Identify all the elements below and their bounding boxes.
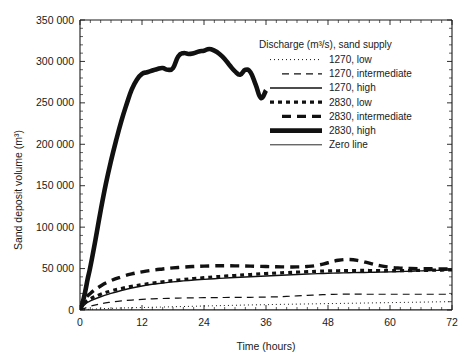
x-tick-label: 24	[198, 316, 210, 328]
legend-label-2830-intermediate: 2830, intermediate	[329, 111, 412, 122]
y-tick-label: 100 000	[36, 221, 74, 233]
legend-label-1270-low: 1270, low	[329, 54, 373, 65]
y-axis-title: Sand deposit volume (m³)	[12, 130, 24, 250]
x-tick-label: 0	[77, 316, 83, 328]
y-tick-label: 0	[68, 304, 74, 316]
legend-title: Discharge (m³/s), sand supply	[259, 39, 392, 50]
legend-label-1270-intermediate: 1270, intermediate	[329, 68, 412, 79]
x-tick-label: 12	[136, 316, 148, 328]
y-tick-label: 150 000	[36, 179, 74, 191]
x-tick-label: 72	[446, 316, 458, 328]
sand-deposit-volume-line-chart: 050 000100 000150 000200 000250 000300 0…	[0, 0, 468, 358]
x-tick-label: 48	[322, 316, 334, 328]
y-tick-label: 250 000	[36, 96, 74, 108]
y-tick-label: 350 000	[36, 14, 74, 26]
y-tick-label: 50 000	[42, 262, 74, 274]
x-tick-label: 36	[260, 316, 272, 328]
legend-label-2830-high: 2830, high	[329, 125, 376, 136]
legend-label-zero-line: Zero line	[329, 139, 368, 150]
legend-label-2830-low: 2830, low	[329, 97, 373, 108]
chart-figure: 050 000100 000150 000200 000250 000300 0…	[0, 0, 468, 358]
y-tick-label: 300 000	[36, 55, 74, 67]
legend-label-1270-high: 1270, high	[329, 82, 376, 93]
x-axis-title: Time (hours)	[236, 340, 295, 352]
x-tick-label: 60	[384, 316, 396, 328]
y-tick-label: 200 000	[36, 138, 74, 150]
